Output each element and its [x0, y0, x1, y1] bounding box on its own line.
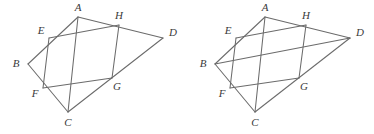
right-figure-segment-FG [230, 78, 299, 88]
vertex-label-e: E [224, 24, 232, 36]
left-figure-segment-FG [43, 78, 112, 88]
vertex-label-f: F [31, 87, 39, 99]
figure-board: ABCDEFGH ABCDEFGH [0, 0, 374, 134]
vertex-label-h: H [114, 9, 124, 21]
vertex-label-c: C [64, 116, 72, 128]
left-figure-diagonal-AC [68, 17, 78, 112]
left-figure-segment-AB [28, 17, 78, 64]
vertex-label-c: C [251, 116, 259, 128]
vertex-label-g: G [113, 80, 121, 92]
vertex-label-e: E [37, 24, 45, 36]
left-figure-segment-EH [49, 25, 119, 38]
left-figure-edges [28, 17, 163, 112]
vertex-label-b: B [13, 57, 20, 69]
vertex-label-f: F [218, 87, 226, 99]
right-figure-diagonal-AC [255, 17, 265, 112]
right-figure-segment-EF [230, 38, 236, 88]
vertex-label-b: B [200, 57, 207, 69]
vertex-label-g: G [300, 80, 308, 92]
vertex-label-a: A [74, 1, 82, 13]
left-figure-svg: ABCDEFGH [0, 0, 187, 134]
left-figure-segment-EF [43, 38, 49, 88]
right-figure-edges [215, 17, 350, 112]
vertex-label-h: H [301, 9, 311, 21]
vertex-label-d: D [355, 26, 364, 38]
left-figure-panel: ABCDEFGH [0, 0, 187, 134]
vertex-label-d: D [168, 26, 177, 38]
right-figure-segment-AB [215, 17, 265, 64]
left-figure-labels: ABCDEFGH [13, 1, 177, 128]
left-figure-segment-GH [112, 25, 119, 78]
right-figure-panel: ABCDEFGH [187, 0, 374, 134]
right-figure-segment-EH [236, 25, 306, 38]
vertex-label-a: A [261, 1, 269, 13]
right-figure-svg: ABCDEFGH [187, 0, 374, 134]
right-figure-segment-GH [299, 25, 306, 78]
right-figure-labels: ABCDEFGH [200, 1, 364, 128]
